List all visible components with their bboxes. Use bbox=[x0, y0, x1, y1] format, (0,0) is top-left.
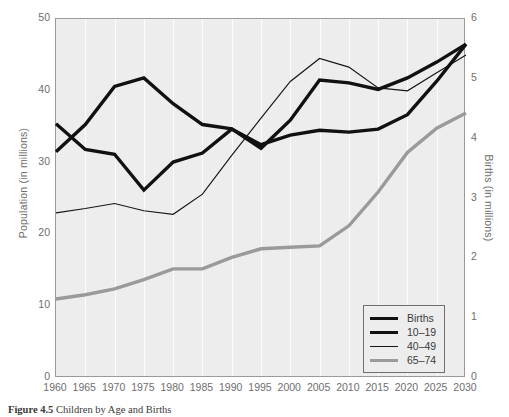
series-line-65-74 bbox=[56, 113, 466, 299]
legend-item-40-49[interactable]: 40–49 bbox=[370, 339, 436, 353]
series-line-10-19 bbox=[56, 44, 466, 152]
legend-item-10-19[interactable]: 10–19 bbox=[370, 325, 436, 339]
legend-swatch-icon bbox=[370, 346, 398, 347]
legend-item-births[interactable]: Births bbox=[370, 311, 436, 325]
legend-item-65-74[interactable]: 65–74 bbox=[370, 353, 436, 367]
legend-label: 10–19 bbox=[407, 326, 436, 338]
legend-label: 40–49 bbox=[407, 340, 436, 352]
series-line-births bbox=[56, 44, 466, 190]
caption-text: Children by Age and Births bbox=[56, 404, 172, 415]
y-right-tick-6: 6 bbox=[471, 11, 497, 23]
legend-swatch-icon bbox=[370, 317, 398, 320]
caption-figure-number: Figure 4.5 bbox=[8, 404, 53, 415]
chart-legend: Births10–1940–4965–74 bbox=[363, 305, 445, 373]
y-left-tick-10: 10 bbox=[24, 298, 50, 310]
y-right-tick-5: 5 bbox=[471, 71, 497, 83]
y-left-tick-50: 50 bbox=[24, 11, 50, 23]
figure-container: Population (in millions) Births (in mill… bbox=[0, 0, 509, 417]
y-right-tick-2: 2 bbox=[471, 250, 497, 262]
y-right-tick-3: 3 bbox=[471, 191, 497, 203]
y-left-tick-40: 40 bbox=[24, 83, 50, 95]
x-tick-2030: 2030 bbox=[445, 381, 485, 393]
legend-label: 65–74 bbox=[407, 354, 436, 366]
legend-swatch-icon bbox=[370, 359, 398, 362]
y-right-tick-1: 1 bbox=[471, 310, 497, 322]
legend-label: Births bbox=[407, 312, 434, 324]
y-left-tick-30: 30 bbox=[24, 155, 50, 167]
figure-caption: Figure 4.5 Children by Age and Births bbox=[8, 404, 503, 415]
y-left-tick-20: 20 bbox=[24, 226, 50, 238]
legend-swatch-icon bbox=[370, 331, 398, 334]
y-right-tick-4: 4 bbox=[471, 131, 497, 143]
